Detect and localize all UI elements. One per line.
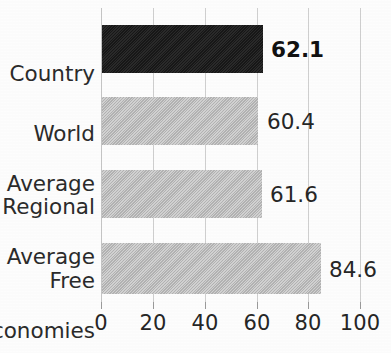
xtick-label-60: 60: [243, 311, 270, 335]
tick-mark-100: [360, 302, 361, 309]
xtick-label-40: 40: [191, 311, 218, 335]
tick-mark-40: [205, 302, 206, 309]
category-label-free-line1: Free: [0, 268, 95, 293]
tick-mark-20: [153, 302, 154, 309]
bar-world-average[interactable]: [102, 97, 258, 145]
bar-free-economies[interactable]: [102, 243, 321, 294]
tick-mark-60: [257, 302, 258, 309]
category-label-country-line1: Country: [10, 61, 95, 86]
xtick-label-80: 80: [294, 311, 321, 335]
category-label-world-line1: World: [0, 121, 95, 146]
value-label-regional-average: 61.6: [270, 182, 318, 207]
bar-regional-average[interactable]: [102, 170, 262, 218]
category-label-regional-line1: Regional: [0, 194, 95, 219]
category-label-free-economies: Free Economies: [0, 243, 95, 353]
tick-mark-0: [101, 302, 102, 309]
category-label-free-line2: Economies: [0, 318, 95, 343]
xtick-label-20: 20: [139, 311, 166, 335]
value-label-world-average: 60.4: [267, 109, 315, 134]
xtick-label-0: 0: [94, 311, 108, 335]
bar-chart: Country World Average Regional Average F…: [0, 0, 391, 353]
value-label-country: 62.1: [271, 37, 324, 62]
bar-country[interactable]: [102, 25, 263, 73]
category-label-country: Country: [0, 36, 95, 86]
value-label-free-economies: 84.6: [329, 257, 377, 282]
tick-mark-80: [308, 302, 309, 309]
xtick-label-100: 100: [340, 311, 381, 335]
plot-area: 0 20 40 60 80 100 62.1 60.4 61.6 84.6: [101, 8, 360, 302]
